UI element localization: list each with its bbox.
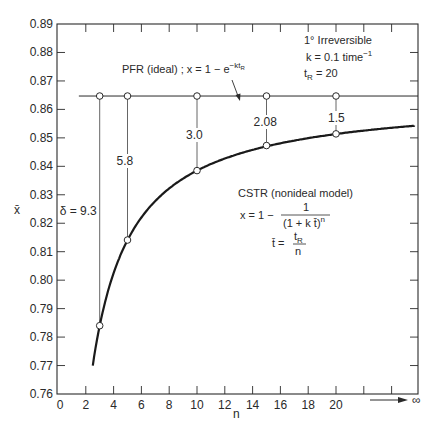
plot-frame xyxy=(57,24,418,394)
cstr-eq-numerator: 1 xyxy=(303,201,309,213)
x-tick-label: 18 xyxy=(302,398,316,412)
svg-text:k = 0.1 time−1: k = 0.1 time−1 xyxy=(306,49,373,63)
x-tick-label: 6 xyxy=(138,398,145,412)
y-tick-label: 0.80 xyxy=(30,273,54,287)
x-axis: 02468101214161820 xyxy=(57,24,392,412)
y-tick-label: 0.84 xyxy=(30,159,54,173)
y-tick-label: 0.79 xyxy=(30,302,54,316)
cstr-eq-den-sup: n xyxy=(321,215,325,224)
y-tick-label: 0.87 xyxy=(30,74,54,88)
pfr-marker xyxy=(124,93,131,100)
y-tick-label: 0.82 xyxy=(30,216,54,230)
pfr-marker xyxy=(333,93,340,100)
cstr-eq-lhs: x = 1 − xyxy=(240,209,274,221)
condition-t-value: = 20 xyxy=(313,67,338,79)
cstr-marker xyxy=(124,237,131,244)
y-tick-label: 0.86 xyxy=(30,102,54,116)
x-tick-label: 2 xyxy=(82,398,89,412)
y-tick-label: 0.78 xyxy=(30,330,54,344)
delta-label: 2.08 xyxy=(254,115,278,129)
tbar-lhs: t̄ = xyxy=(271,237,284,249)
pfr-marker xyxy=(194,93,201,100)
conditions-annotation: 1° Irreversible k = 0.1 time−1 tR = 20 xyxy=(304,34,373,82)
series-lines xyxy=(79,96,418,366)
y-tick-label: 0.85 xyxy=(30,131,54,145)
delta-label: 1.5 xyxy=(328,111,345,125)
cstr-title: CSTR (nonideal model) xyxy=(238,187,353,199)
cstr-eq-denominator: (1 + k t̄) xyxy=(283,217,321,229)
cstr-marker xyxy=(333,131,340,138)
infinity-arrow: ∞ xyxy=(370,393,421,407)
y-tick-label: 0.77 xyxy=(30,359,54,373)
x-tick-label: 12 xyxy=(218,398,232,412)
plot-border xyxy=(57,24,418,394)
cstr-marker xyxy=(96,322,103,329)
pfr-annotation: PFR (ideal) ; x = 1 − e−ktR xyxy=(122,61,246,101)
delta-connector-lines xyxy=(100,96,336,326)
y-tick-label: 0.76 xyxy=(30,387,54,401)
cstr-curve xyxy=(93,125,414,365)
x-tick-label: 0 xyxy=(57,398,64,412)
cstr-annotation: CSTR (nonideal model) x = 1 − 1 (1 + k t… xyxy=(238,187,353,257)
pfr-label-text: PFR (ideal) ; x = 1 − e xyxy=(122,63,230,75)
svg-text:(1 + k t̄)n: (1 + k t̄)n xyxy=(283,215,325,229)
condition-k-sup: −1 xyxy=(363,49,373,58)
condition-k: k = 0.1 time xyxy=(306,51,363,63)
pfr-marker xyxy=(96,93,103,100)
x-tick-label: 4 xyxy=(110,398,117,412)
x-tick-label: 16 xyxy=(274,398,288,412)
y-axis-label: x̄ xyxy=(14,203,20,217)
y-tick-label: 0.89 xyxy=(30,17,54,31)
x-tick-label: 20 xyxy=(329,398,343,412)
svg-text:PFR (ideal) ; x = 1 − e−ktR: PFR (ideal) ; x = 1 − e−ktR xyxy=(122,61,246,75)
x-axis-label: n xyxy=(233,407,240,421)
tbar-denominator: n xyxy=(295,245,301,257)
pfr-pointer-arrow-icon xyxy=(236,94,241,102)
y-tick-label: 0.88 xyxy=(30,45,54,59)
y-tick-label: 0.81 xyxy=(30,245,54,259)
delta-label: 3.0 xyxy=(186,128,203,142)
cstr-marker xyxy=(194,167,201,174)
pfr-marker xyxy=(263,93,270,100)
arrow-head-icon xyxy=(398,397,408,403)
pfr-pointer-line xyxy=(232,80,238,96)
x-tick-label: 10 xyxy=(190,398,204,412)
condition-order: 1° Irreversible xyxy=(304,34,372,46)
svg-text:tR = 20: tR = 20 xyxy=(304,67,338,82)
x-tick-label: 8 xyxy=(166,398,173,412)
pfr-exponent: −kt xyxy=(230,61,242,70)
conversion-vs-n-chart: 0.760.770.780.790.800.810.820.830.840.85… xyxy=(0,0,430,433)
infinity-label: ∞ xyxy=(412,393,421,407)
delta-label: δ = 9.3 xyxy=(60,204,97,218)
delta-label: 5.8 xyxy=(117,154,134,168)
chart-container: 0.760.770.780.790.800.810.820.830.840.85… xyxy=(0,0,430,433)
cstr-marker xyxy=(263,142,270,149)
pfr-exponent-sub: R xyxy=(241,65,246,71)
svg-text:tR: tR xyxy=(294,230,303,245)
y-tick-label: 0.83 xyxy=(30,188,54,202)
x-tick-label: 14 xyxy=(246,398,260,412)
